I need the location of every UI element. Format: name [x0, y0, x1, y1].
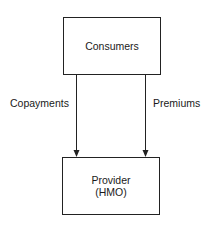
provider-sublabel: (HMO)	[95, 186, 127, 198]
provider-node: Provider (HMO)	[62, 157, 160, 215]
premiums-label: Premiums	[153, 97, 200, 109]
premiums-arrowhead-icon	[143, 150, 149, 157]
consumers-node: Consumers	[63, 17, 161, 75]
consumers-label: Consumers	[85, 40, 139, 52]
copayments-arrowhead-icon	[74, 150, 80, 157]
provider-label: Provider	[91, 174, 130, 186]
copayments-label: Copayments	[10, 97, 69, 109]
